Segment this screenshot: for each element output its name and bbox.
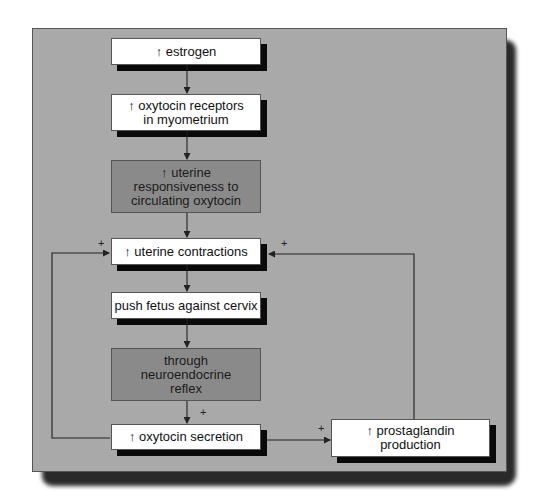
node-label-reflex: throughneuroendocrinereflex — [141, 354, 231, 396]
node-label-line: in myometrium — [128, 113, 244, 127]
node-label-line: responsiveness to — [131, 180, 241, 194]
node-reflex: throughneuroendocrinereflex — [111, 348, 261, 401]
edge-oxytocin-contractions-loop — [52, 253, 110, 438]
node-label-estrogen: ↑ estrogen — [156, 45, 217, 59]
node-label-line: through — [141, 354, 231, 368]
node-label-line: ↑ uterine contractions — [124, 245, 248, 259]
node-push: push fetus against cervix — [111, 292, 261, 319]
node-label-line: circulating oxytocin — [131, 194, 241, 208]
edge-prostaglandin-contractions-loop — [269, 254, 414, 419]
node-contractions: ↑ uterine contractions — [111, 238, 261, 265]
node-prostaglandin: ↑ prostaglandinproduction — [331, 419, 490, 457]
plus-sign-right-loop: + — [281, 238, 287, 249]
node-label-line: neuroendocrine — [141, 368, 231, 382]
node-label-line: ↑ prostaglandin — [366, 424, 454, 438]
node-label-line: ↑ estrogen — [156, 45, 217, 59]
node-label-responsiveness: ↑ uterineresponsiveness tocirculating ox… — [131, 166, 241, 208]
node-label-push: push fetus against cervix — [114, 299, 257, 313]
node-label-receptors: ↑ oxytocin receptorsin myometrium — [128, 99, 244, 127]
node-label-line: ↑ oxytocin receptors — [128, 99, 244, 113]
node-label-line: push fetus against cervix — [114, 299, 257, 313]
node-estrogen: ↑ estrogen — [111, 38, 261, 65]
node-responsiveness: ↑ uterineresponsiveness tocirculating ox… — [111, 160, 261, 213]
node-label-line: ↑ uterine — [131, 166, 241, 180]
node-label-prostaglandin: ↑ prostaglandinproduction — [366, 424, 454, 452]
node-label-oxytocin: ↑ oxytocin secretion — [129, 430, 243, 444]
node-receptors: ↑ oxytocin receptorsin myometrium — [111, 94, 261, 131]
node-label-line: ↑ oxytocin secretion — [129, 430, 243, 444]
plus-sign-left-loop: + — [98, 238, 104, 249]
node-label-line: reflex — [141, 382, 231, 396]
node-oxytocin: ↑ oxytocin secretion — [111, 424, 261, 450]
plus-sign-prostaglandin: + — [318, 423, 324, 434]
node-label-line: production — [366, 438, 454, 452]
plus-sign-reflex: + — [200, 407, 206, 418]
node-label-contractions: ↑ uterine contractions — [124, 245, 248, 259]
